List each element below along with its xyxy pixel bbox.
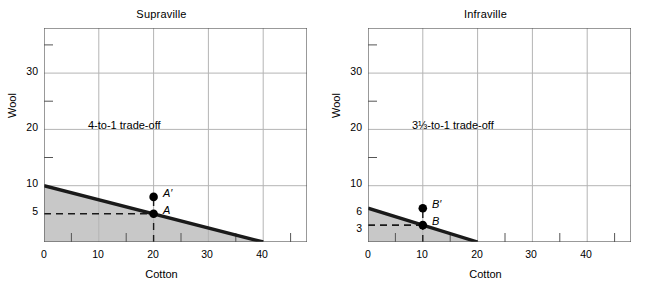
y-axis-label-infraville: Wool	[330, 93, 342, 118]
chart-title-supraville: Supraville	[0, 8, 323, 20]
x-tick-infraville-40: 40	[571, 248, 601, 260]
y-tick-infraville-10: 10	[328, 177, 362, 189]
plot-area-infraville: 3⅓-to-1 trade-off B′ B	[368, 28, 631, 242]
x-tick-supraville-20: 20	[138, 248, 168, 260]
y-tick-infraville-6: 6	[328, 205, 362, 217]
point-label-B-prime: B′	[432, 198, 441, 210]
x-tick-infraville-0: 0	[353, 248, 383, 260]
y-tick-supraville-20: 20	[4, 121, 38, 133]
x-axis-label-infraville: Cotton	[324, 268, 647, 280]
data-point-A-prime[interactable]	[149, 193, 158, 202]
x-tick-supraville-30: 30	[192, 248, 222, 260]
plot-background	[368, 28, 631, 242]
point-label-B: B	[432, 215, 439, 227]
figure-canvas: Supraville Wool Cotton 5 10 20 30 0 10 2…	[0, 0, 647, 286]
chart-title-infraville: Infraville	[324, 8, 647, 20]
y-tick-infraville-3: 3	[328, 222, 362, 234]
y-axis-label-supraville: Wool	[6, 93, 18, 118]
plot-svg-infraville	[368, 28, 631, 242]
y-tick-infraville-30: 30	[328, 65, 362, 77]
annotation-tradeoff-infraville: 3⅓-to-1 trade-off	[412, 119, 494, 131]
x-tick-infraville-20: 20	[462, 248, 492, 260]
chart-panel-supraville: Supraville Wool Cotton 5 10 20 30 0 10 2…	[0, 0, 323, 286]
x-tick-infraville-30: 30	[516, 248, 546, 260]
x-tick-supraville-10: 10	[83, 248, 113, 260]
data-point-A[interactable]	[149, 210, 158, 219]
y-tick-supraville-5: 5	[4, 205, 38, 217]
point-label-A-prime: A′	[163, 187, 172, 199]
y-tick-supraville-10: 10	[4, 177, 38, 189]
point-label-A: A	[163, 204, 170, 216]
x-tick-supraville-0: 0	[29, 248, 59, 260]
data-point-B-prime[interactable]	[419, 204, 428, 213]
chart-panel-infraville: Infraville Wool Cotton 3 6 10 20 30 0 10…	[324, 0, 647, 286]
annotation-tradeoff-supraville: 4-to-1 trade-off	[88, 119, 161, 131]
y-tick-infraville-20: 20	[328, 121, 362, 133]
plot-svg-supraville	[44, 28, 307, 242]
x-tick-supraville-40: 40	[247, 248, 277, 260]
x-axis-label-supraville: Cotton	[0, 268, 323, 280]
data-point-B[interactable]	[419, 221, 428, 230]
plot-area-supraville: 4-to-1 trade-off A′ A	[44, 28, 307, 242]
x-tick-infraville-10: 10	[407, 248, 437, 260]
y-tick-supraville-30: 30	[4, 65, 38, 77]
